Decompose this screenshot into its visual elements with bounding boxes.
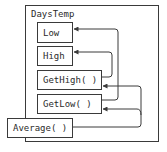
member-gethigh: GetHigh( ): [37, 70, 102, 90]
member-getlow: GetLow( ): [37, 94, 102, 114]
class-name: DaysTemp: [31, 9, 74, 19]
member-low: Low: [37, 22, 73, 43]
member-high: High: [37, 46, 73, 66]
member-average: Average( ): [7, 118, 73, 138]
class-diagram: DaysTemp Low High GetHigh( ) GetLow( ) A…: [0, 0, 167, 152]
